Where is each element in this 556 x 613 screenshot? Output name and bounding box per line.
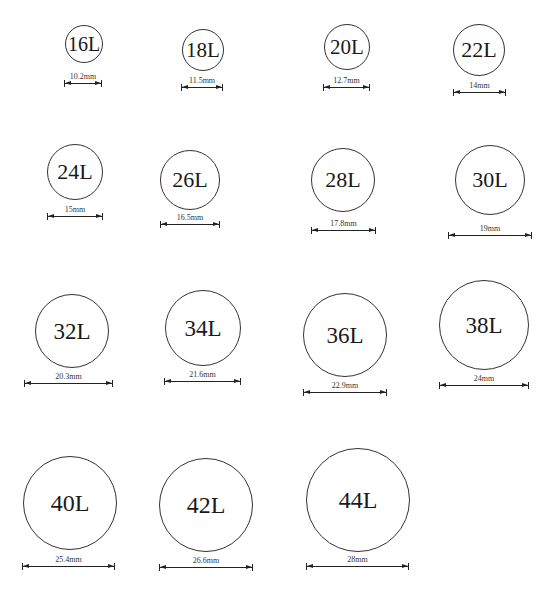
arrow-left-icon	[160, 565, 166, 569]
arrow-left-icon	[182, 85, 188, 89]
button-circle: 26L	[160, 150, 220, 210]
arrow-left-icon	[48, 214, 54, 218]
dimension-tick-right	[101, 80, 102, 87]
dimension-arrow	[24, 383, 113, 384]
button-circle: 44L	[306, 448, 410, 552]
button-size-label: 22L	[461, 39, 496, 61]
arrow-left-icon	[304, 390, 310, 394]
dimension-arrow	[306, 566, 409, 567]
button-size-label: 20L	[330, 37, 364, 58]
arrow-left-icon	[65, 81, 71, 85]
dimension-arrow	[439, 385, 529, 386]
button-circle: 32L	[35, 294, 109, 368]
diameter-label: 10.2mm	[64, 72, 102, 81]
arrow-left-icon	[454, 90, 460, 94]
arrow-left-icon	[307, 564, 313, 568]
dimension-tick-right	[222, 84, 223, 91]
arrow-left-icon	[312, 228, 318, 232]
dimension-arrow	[22, 566, 115, 567]
button-size-label: 40L	[51, 491, 90, 515]
button-circle: 38L	[439, 280, 529, 370]
button-size-label: 32L	[53, 320, 90, 343]
diameter-label: 28mm	[306, 555, 409, 564]
button-size-label: 38L	[465, 314, 502, 337]
button-circle: 36L	[303, 293, 387, 377]
dimension-tick-right	[112, 380, 113, 387]
dimension-arrow	[64, 83, 102, 84]
arrow-left-icon	[440, 383, 446, 387]
diameter-label: 26.6mm	[159, 556, 253, 565]
dimension-tick-right	[531, 232, 532, 239]
button-size-label: 16L	[68, 34, 100, 54]
button-size-label: 44L	[339, 488, 378, 512]
diameter-label: 14mm	[453, 81, 506, 90]
diameter-label: 11.5mm	[181, 76, 223, 85]
button-circle: 18L	[182, 29, 224, 71]
button-size-label: 28L	[325, 169, 360, 191]
arrow-left-icon	[449, 233, 455, 237]
diameter-label: 24mm	[439, 374, 529, 383]
dimension-arrow	[159, 567, 253, 568]
dimension-tick-right	[252, 564, 253, 571]
dimension-tick-right	[102, 213, 103, 220]
button-circle: 16L	[65, 25, 103, 63]
dimension-arrow	[311, 230, 376, 231]
dimension-tick-right	[528, 382, 529, 389]
dimension-arrow	[47, 216, 103, 217]
dimension-arrow	[323, 87, 370, 88]
diameter-label: 16.5mm	[160, 213, 220, 222]
diameter-label: 20.3mm	[24, 372, 113, 381]
arrow-left-icon	[161, 222, 167, 226]
button-size-label: 36L	[326, 324, 363, 347]
diameter-label: 25.4mm	[22, 555, 115, 564]
dimension-tick-right	[375, 227, 376, 234]
arrow-left-icon	[25, 381, 31, 385]
button-circle: 40L	[23, 456, 117, 550]
button-circle: 42L	[159, 458, 253, 552]
button-circle: 34L	[165, 290, 241, 366]
button-circle: 28L	[311, 148, 375, 212]
button-circle: 20L	[324, 24, 370, 70]
diameter-label: 15mm	[47, 205, 103, 214]
button-size-label: 26L	[172, 169, 207, 191]
dimension-tick-right	[114, 563, 115, 570]
dimension-tick-right	[505, 89, 506, 96]
dimension-arrow	[303, 392, 387, 393]
button-size-label: 24L	[57, 161, 92, 183]
button-size-label: 18L	[186, 40, 220, 61]
button-size-label: 42L	[187, 493, 226, 517]
dimension-tick-right	[369, 84, 370, 91]
dimension-tick-right	[408, 563, 409, 570]
diameter-label: 17.8mm	[311, 219, 376, 228]
dimension-arrow	[448, 235, 532, 236]
arrow-left-icon	[23, 564, 29, 568]
arrow-left-icon	[324, 85, 330, 89]
button-circle: 22L	[453, 24, 505, 76]
dimension-arrow	[164, 381, 241, 382]
diameter-label: 12.7mm	[323, 76, 370, 85]
diameter-label: 22.9mm	[303, 381, 387, 390]
dimension-tick-right	[386, 389, 387, 396]
button-size-label: 34L	[184, 317, 221, 340]
button-circle: 30L	[455, 145, 525, 215]
arrow-left-icon	[165, 379, 171, 383]
dimension-arrow	[181, 87, 223, 88]
diameter-label: 21.6mm	[164, 370, 241, 379]
button-circle: 24L	[47, 144, 103, 200]
diameter-label: 19mm	[448, 224, 532, 233]
dimension-arrow	[160, 224, 220, 225]
dimension-tick-right	[219, 221, 220, 228]
dimension-arrow	[453, 92, 506, 93]
dimension-tick-right	[240, 378, 241, 385]
button-size-label: 30L	[472, 169, 507, 191]
